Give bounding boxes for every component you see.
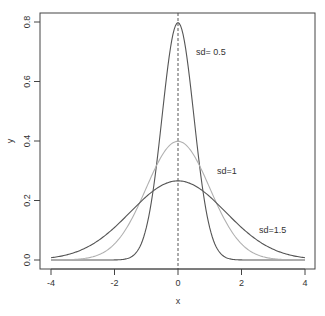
y-tick-label: 0.2 [22,194,32,207]
y-tick-label: 0.6 [22,75,32,88]
y-axis: 0.0 0.2 0.4 0.6 0.8 y [5,16,40,267]
y-tick-label: 0.8 [22,16,32,29]
annotation-sd-1: sd=1 [217,166,237,176]
x-axis-title: x [176,296,181,306]
annotation-sd-1-5: sd=1.5 [259,225,286,235]
density-chart: -4 -2 0 2 4 x 0.0 0.2 0.4 0.6 0.8 y sd= … [0,0,325,316]
y-tick-label: 0.4 [22,135,32,148]
y-tick-label: 0.0 [22,254,32,267]
x-tick-label: 4 [302,278,307,288]
annotation-sd-0-5: sd= 0.5 [196,47,226,57]
y-axis-title: y [5,138,15,143]
x-tick-label: 0 [175,278,180,288]
x-tick-label: -2 [110,278,118,288]
x-tick-label: -4 [47,278,55,288]
x-axis: -4 -2 0 2 4 x [47,269,308,306]
x-tick-label: 2 [239,278,244,288]
